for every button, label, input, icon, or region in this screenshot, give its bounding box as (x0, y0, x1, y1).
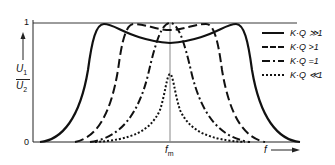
y-arrowhead-icon (21, 32, 26, 39)
legend-label: K·Q ≫1 (290, 28, 323, 38)
plot-area (0, 0, 335, 165)
fm-sub: m (168, 150, 174, 157)
x-axis-label: f (264, 145, 267, 155)
legend-label: K·Q >1 (290, 42, 319, 52)
y-tick-1: 1 (24, 17, 29, 27)
legend-swatch-dashed (262, 46, 284, 48)
x-tick-fm: fm (165, 145, 174, 159)
legend-swatch-solid (262, 32, 284, 34)
legend-swatch-dashdot (262, 59, 284, 63)
x-arrowhead-icon (292, 148, 300, 153)
legend-label: K·Q ≪1 (290, 70, 323, 80)
legend-item-kq-equal: K·Q =1 (262, 55, 319, 67)
y-label-denominator: U2 (16, 81, 27, 95)
legend-label: K·Q =1 (290, 56, 319, 66)
legend-swatch-dotted (262, 74, 284, 76)
y-label-numerator: U1 (16, 64, 27, 78)
legend-item-kq-much-greater: K·Q ≫1 (262, 27, 323, 39)
legend-item-kq-greater: K·Q >1 (262, 41, 319, 53)
resonance-chart: 1 0 U1 U2 fm f K·Q ≫1 K·Q >1 K·Q =1 K·Q … (0, 0, 335, 165)
y-tick-0: 0 (24, 137, 29, 147)
y-den-sub: 2 (23, 86, 27, 93)
legend-item-kq-much-less: K·Q ≪1 (262, 69, 323, 81)
y-num-sub: 1 (23, 69, 27, 76)
